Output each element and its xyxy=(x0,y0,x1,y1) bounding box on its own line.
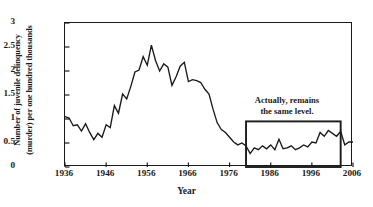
x-tick-label: 1956 xyxy=(124,169,168,178)
y-axis-label-line-2: (murder) per one hundred thousands xyxy=(24,25,37,154)
annotation-line-2: the same level. xyxy=(228,106,346,117)
annotation-line-1: Actually, remains xyxy=(228,95,346,106)
y-tick-label: 0.5 xyxy=(0,137,15,146)
x-axis-label: Year xyxy=(0,186,373,196)
y-tick-label: 1.5 xyxy=(0,89,15,98)
y-tick-label: 3 xyxy=(0,17,15,26)
x-tick-label: 1976 xyxy=(207,169,251,178)
x-tick-label: 2006 xyxy=(330,169,373,178)
y-tick-label: 2.5 xyxy=(0,41,15,50)
callout-highlight-box xyxy=(246,121,341,167)
y-tick-label: 1 xyxy=(0,113,15,122)
plot-area xyxy=(64,22,352,166)
y-tick-marks xyxy=(65,23,70,167)
x-tick-label: 1986 xyxy=(248,169,292,178)
annotation-text: Actually, remains the same level. xyxy=(228,95,346,117)
x-tick-label: 1946 xyxy=(83,169,127,178)
x-tick-label: 1966 xyxy=(165,169,209,178)
y-tick-label: 2 xyxy=(0,65,15,74)
x-tick-label: 1996 xyxy=(289,169,333,178)
x-tick-label: 1936 xyxy=(42,169,86,178)
chart-figure: Number of juvenile delinquency (murder) … xyxy=(0,0,373,207)
y-tick-label: 0 xyxy=(0,161,15,170)
